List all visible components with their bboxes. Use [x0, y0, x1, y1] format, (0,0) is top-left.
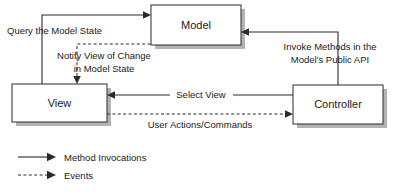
- edge-user-actions-arrowhead: [285, 110, 293, 118]
- legend-item-events: Events: [18, 170, 93, 181]
- legend-label-method-invocations: Method Invocations: [64, 152, 147, 163]
- legend-dashed-arrowhead: [47, 171, 56, 179]
- legend-item-method-invocations: Method Invocations: [18, 152, 147, 163]
- node-view-label: View: [48, 97, 72, 109]
- legend-solid-arrowhead: [47, 153, 56, 161]
- edge-query-model-state-arrowhead: [143, 11, 151, 19]
- legend-label-events: Events: [64, 170, 93, 181]
- edge-label-notify-view-line1: Notify View of Change: [57, 50, 151, 61]
- edge-label-notify-view-line2: in Model State: [74, 63, 135, 74]
- mvc-diagram: Model View Controller Query the Model St…: [0, 0, 395, 194]
- edge-label-query-model-state: Query the Model State: [7, 25, 102, 36]
- edge-label-user-actions: User Actions/Commands: [148, 119, 253, 130]
- edge-label-invoke-methods-line1: Invoke Methods in the: [284, 41, 377, 52]
- diagram-canvas: Model View Controller Query the Model St…: [0, 0, 395, 194]
- edge-label-invoke-methods-line2: Model's Public API: [291, 54, 369, 65]
- legend: Method Invocations Events: [18, 152, 147, 181]
- edge-label-select-view: Select View: [176, 89, 226, 100]
- node-controller-label: Controller: [314, 98, 362, 110]
- edge-notify-view-arrowhead: [73, 76, 81, 84]
- node-model-label: Model: [181, 19, 211, 31]
